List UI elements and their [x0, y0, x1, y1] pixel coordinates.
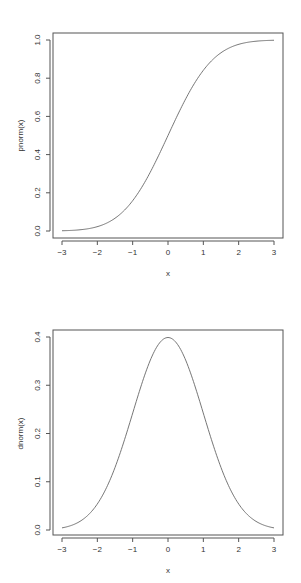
y-tick-label: 0.4 [33, 148, 42, 160]
y-tick-label: 0.0 [33, 225, 42, 237]
y-tick-label: 0.3 [33, 379, 42, 391]
x-axis: −3−2−10123 [57, 538, 276, 554]
plot-1: −3−2−10123x0.00.20.40.60.81.0pnorm(x) [16, 33, 283, 278]
y-tick-label: 0.0 [33, 524, 42, 536]
x-tick-label: 0 [166, 545, 171, 554]
y-axis: 0.00.10.20.30.4 [33, 331, 50, 536]
x-axis-label: x [166, 269, 170, 278]
x-tick-label: −1 [128, 545, 138, 554]
x-tick-label: 1 [201, 248, 206, 257]
y-tick-label: 0.8 [33, 72, 42, 84]
y-tick-label: 0.1 [33, 476, 42, 488]
x-axis-label: x [166, 566, 170, 575]
x-tick-label: 1 [201, 545, 206, 554]
x-tick-label: −2 [93, 248, 103, 257]
y-tick-label: 1.0 [33, 34, 42, 46]
x-tick-label: 3 [272, 545, 277, 554]
y-axis: 0.00.20.40.60.81.0 [33, 34, 50, 237]
x-tick-label: −3 [57, 248, 67, 257]
y-tick-label: 0.2 [33, 187, 42, 199]
y-axis-label: pnorm(x) [16, 119, 25, 151]
x-tick-label: 2 [236, 545, 241, 554]
curve-line [62, 338, 274, 528]
y-tick-label: 0.4 [33, 331, 42, 343]
y-tick-label: 0.6 [33, 110, 42, 122]
x-tick-label: −1 [128, 248, 138, 257]
x-tick-label: 2 [236, 248, 241, 257]
y-axis-label: dnorm(x) [16, 417, 25, 449]
y-tick-label: 0.2 [33, 427, 42, 439]
chart-canvas: −3−2−10123x0.00.20.40.60.81.0pnorm(x)−3−… [0, 0, 301, 583]
x-tick-label: 0 [166, 248, 171, 257]
x-tick-label: 3 [272, 248, 277, 257]
plot-2: −3−2−10123x0.00.10.20.30.4dnorm(x) [16, 330, 283, 575]
x-axis: −3−2−10123 [57, 241, 276, 257]
x-tick-label: −2 [93, 545, 103, 554]
plot-frame [53, 330, 283, 535]
x-tick-label: −3 [57, 545, 67, 554]
curve-line [62, 40, 274, 230]
